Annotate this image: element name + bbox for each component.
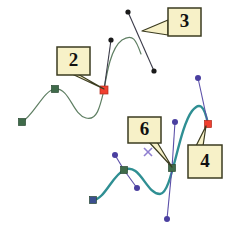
callout-6-tail [148, 141, 172, 167]
handle-teal-lower[interactable] [167, 168, 172, 219]
handle-teal-top[interactable] [198, 78, 208, 124]
nodes-layer [19, 86, 212, 204]
cp-green-upper-left[interactable] [108, 37, 113, 42]
x-cursor [144, 148, 152, 156]
node-teal-sel[interactable] [169, 165, 176, 172]
callout-2-label: 2 [69, 49, 79, 70]
cp-teal-node-b[interactable] [134, 185, 140, 191]
node-teal-start[interactable] [90, 197, 97, 204]
cp-teal-top[interactable] [195, 75, 201, 81]
node-green-mid[interactable] [52, 86, 59, 93]
callout-3[interactable]: 3 [142, 8, 201, 36]
control-points-layer [108, 9, 201, 222]
handle-green-left[interactable] [104, 40, 111, 90]
cp-green-upper-right[interactable] [125, 9, 130, 14]
green-curve[interactable] [22, 89, 104, 122]
cp-teal-upper[interactable] [172, 119, 178, 125]
cp-teal-bottom[interactable] [164, 216, 170, 222]
curves-layer [22, 37, 208, 200]
vector-editor-figure: 2364 [0, 0, 239, 234]
callout-3-tail [142, 20, 168, 35]
callout-2[interactable]: 2 [57, 47, 104, 89]
callout-3-label: 3 [180, 10, 190, 31]
callouts-layer: 2364 [57, 8, 222, 178]
callout-4-tail [196, 126, 206, 146]
callout-4-label: 4 [200, 150, 210, 171]
callout-6-label: 6 [140, 118, 150, 139]
green-curve-upper[interactable] [104, 37, 141, 90]
cp-teal-node-a[interactable] [112, 152, 118, 158]
node-green-end[interactable] [19, 119, 26, 126]
callout-6[interactable]: 6 [128, 117, 172, 167]
figure-canvas: 2364 [0, 0, 239, 234]
callout-4[interactable]: 4 [188, 126, 222, 178]
cursor-layer [144, 148, 152, 156]
node-teal-mid[interactable] [121, 167, 128, 174]
handles-layer [104, 12, 208, 219]
cp-green-lower-right[interactable] [151, 68, 156, 73]
handle-green-right[interactable] [128, 12, 154, 71]
